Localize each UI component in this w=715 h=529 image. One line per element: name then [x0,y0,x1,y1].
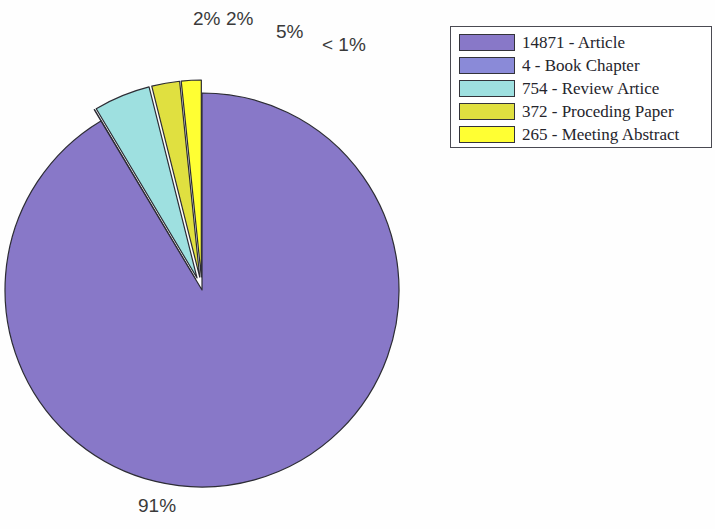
legend-color-swatch [459,126,515,143]
legend-item-label: 754 - Review Artice [522,80,659,97]
legend-item-label: 372 - Proceding Paper [522,103,674,120]
legend-item: 14871 - Article [459,31,711,53]
legend-color-swatch [459,34,515,51]
article-slice [5,93,399,487]
legend-item: 4 - Book Chapter [459,54,711,76]
article-percent-label: 91% [138,495,176,517]
legend-item: 372 - Proceding Paper [459,100,711,122]
legend-item-label: 265 - Meeting Abstract [522,126,679,143]
chart-legend: 14871 - Article4 - Book Chapter754 - Rev… [450,26,712,148]
legend-item-label: 14871 - Article [522,34,625,51]
legend-color-swatch [459,80,515,97]
proceeding-paper-percent-label: 2% [226,8,253,30]
pie-slice-group [5,80,399,487]
legend-color-swatch [459,103,515,120]
legend-item: 265 - Meeting Abstract [459,123,711,145]
review-article-percent-label: 5% [276,21,303,43]
book-chapter-percent-label: < 1% [322,34,366,56]
meeting-abstract-percent-label: 2% [193,8,220,30]
pie-chart-figure: 2% 2% 5% < 1% 91% 14871 - Article4 - Boo… [0,0,715,529]
legend-color-swatch [459,57,515,74]
legend-item: 754 - Review Artice [459,77,711,99]
legend-item-label: 4 - Book Chapter [522,57,640,74]
